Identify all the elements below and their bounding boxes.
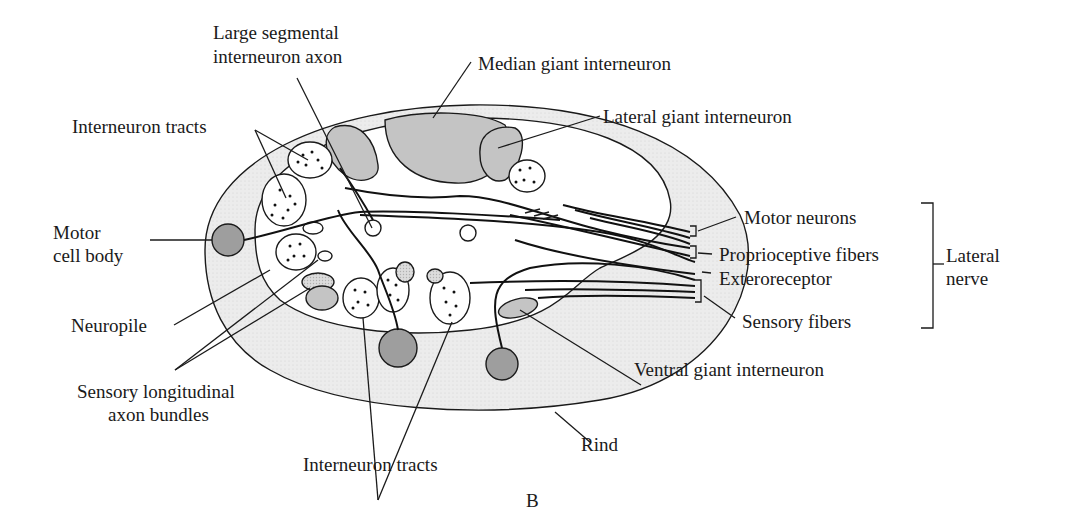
label-lateral-giant: Lateral giant interneuron <box>603 106 792 127</box>
interneuron-tract-upper-left <box>288 142 332 178</box>
interneuron-tract-bottom-1 <box>343 278 379 318</box>
interneuron-tract-mid-left <box>276 234 316 270</box>
label-rind: Rind <box>581 434 618 455</box>
label-motor-2: cell body <box>53 245 124 266</box>
cell-body-bottom-2 <box>486 348 518 380</box>
label-motor-1: Motor <box>53 222 101 243</box>
label-sensory-fibers: Sensory fibers <box>742 311 851 332</box>
label-median-giant: Median giant interneuron <box>478 53 672 74</box>
label-sensory-long-2: axon bundles <box>108 404 209 425</box>
interneuron-tract-left <box>262 174 306 226</box>
label-sensory-long-1: Sensory longitudinal <box>77 381 235 402</box>
label-proprioceptive: Proprioceptive fibers <box>719 244 879 265</box>
label-large-segmental-1: Large segmental <box>213 22 339 43</box>
axon-open-2 <box>318 251 332 261</box>
interneuron-tract-upper-right <box>509 160 545 192</box>
motor-cell-body <box>212 224 244 256</box>
label-large-segmental-2: interneuron axon <box>213 46 343 67</box>
label-lateral-nerve-1: Lateral <box>946 245 1000 266</box>
label-motor-neurons: Motor neurons <box>744 207 856 228</box>
cell-body-bottom-1 <box>379 329 417 367</box>
label-interneuron-tracts-bottom: Interneuron tracts <box>303 454 438 475</box>
ganglion-diagram: Large segmental interneuron axon Median … <box>0 0 1065 515</box>
label-interneuron-tracts-top: Interneuron tracts <box>72 116 207 137</box>
panel-label: B <box>526 490 539 511</box>
sensory-longitudinal-bundle-b <box>306 286 338 310</box>
large-segmental-axon <box>365 220 381 236</box>
label-ventral-giant: Ventral giant interneuron <box>634 359 824 380</box>
sensory-bundle-small-1 <box>396 262 414 282</box>
label-neuropile: Neuropile <box>71 315 147 336</box>
label-lateral-nerve-2: nerve <box>946 268 988 289</box>
label-exteroreceptor: Exteroreceptor <box>719 268 833 289</box>
axon-open-3 <box>460 225 476 241</box>
sensory-bundle-small-2 <box>427 269 443 283</box>
